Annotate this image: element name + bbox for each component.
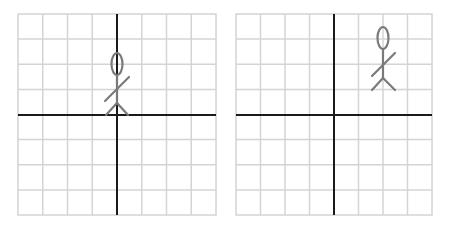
grid-translated	[236, 14, 432, 215]
diagram-canvas	[0, 0, 450, 230]
figure-left-leg	[372, 78, 383, 90]
figure-left-leg	[106, 103, 117, 115]
grid-original	[18, 14, 216, 215]
axes	[18, 14, 216, 215]
axes	[236, 14, 432, 215]
figure-right-leg	[383, 78, 395, 90]
figure-right-leg	[117, 103, 128, 115]
